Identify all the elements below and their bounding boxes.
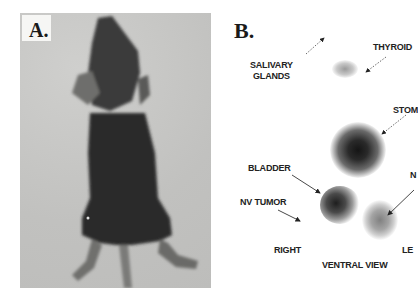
arrow-nv-tumor <box>278 210 300 221</box>
arrow-right-partial <box>388 190 414 215</box>
arrow-bladder <box>292 175 320 193</box>
arrow-salivary <box>306 38 324 54</box>
panel-a-label-box: A. <box>22 15 51 41</box>
annotation-arrows <box>222 0 414 300</box>
arrow-thyroid <box>366 57 386 72</box>
arrow-stomach <box>382 115 406 134</box>
panel-b-scintigram: B. SALIVARY GLANDS THYROID STOM BLADDER … <box>222 0 414 300</box>
panel-a-label: A. <box>29 19 48 42</box>
mouse-photo <box>20 13 211 288</box>
panel-a-photo: A. <box>20 13 211 288</box>
